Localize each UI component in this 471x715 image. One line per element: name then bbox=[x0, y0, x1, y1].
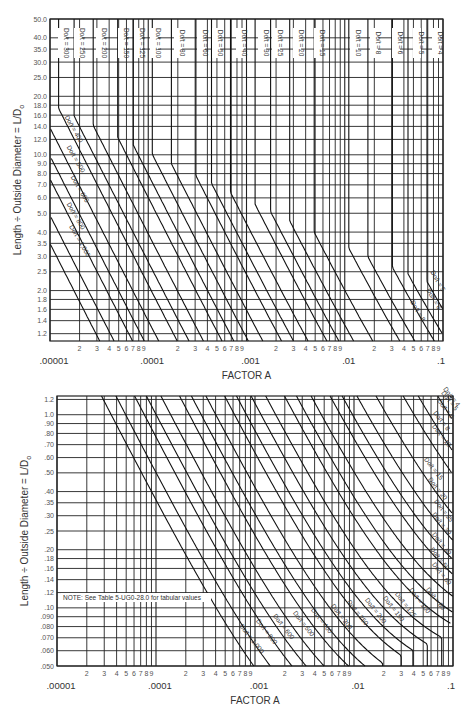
x-minor-tick-label: 2 bbox=[184, 670, 188, 677]
x-minor-tick-label: 6 bbox=[223, 345, 227, 352]
x-minor-tick-label: 5 bbox=[117, 345, 121, 352]
x-decade-label: .001 bbox=[250, 680, 269, 691]
x-minor-tick-label: 7 bbox=[139, 670, 143, 677]
x-minor-tick-label: 4 bbox=[205, 345, 209, 352]
x-minor-tick-label: 5 bbox=[124, 670, 128, 677]
x-decade-label: .1 bbox=[437, 355, 445, 366]
y-tick-label: 18.0 bbox=[33, 102, 47, 109]
y-tick-label: 1.4 bbox=[37, 317, 47, 324]
curve-label: Do/t = 40 bbox=[241, 30, 248, 57]
x-minor-tick-label: 3 bbox=[300, 670, 304, 677]
factor-a-chart-figure: 50.040.035.030.025.020.018.016.014.012.0… bbox=[0, 0, 471, 715]
y-tick-label: 30.0 bbox=[33, 59, 47, 66]
x-minor-tick-label: 7 bbox=[426, 345, 430, 352]
y-tick-label: 12.0 bbox=[33, 136, 47, 143]
y-tick-label: 1.8 bbox=[37, 296, 47, 303]
curve-do-t-30 bbox=[255, 19, 327, 341]
curve-label: Do/t = 4 bbox=[437, 32, 444, 55]
x-minor-tick-label: 8 bbox=[144, 670, 148, 677]
y-axis-title: Length ÷ Outside Diameter = L/Do bbox=[19, 456, 32, 606]
y-tick-label: .50 bbox=[44, 469, 54, 476]
y-tick-label: .20 bbox=[44, 546, 54, 553]
y-axis-title: Length ÷ Outside Diameter = L/Do bbox=[12, 105, 25, 255]
x-minor-tick-label: 5 bbox=[421, 670, 425, 677]
curve-do-t-50 bbox=[212, 19, 294, 341]
y-tick-label: 14.0 bbox=[33, 123, 47, 130]
y-tick-label: 8.0 bbox=[37, 170, 47, 177]
x-minor-tick-label: 5 bbox=[411, 345, 415, 352]
x-minor-tick-label: 4 bbox=[214, 670, 218, 677]
x-minor-tick-label: 8 bbox=[235, 345, 239, 352]
y-tick-label: .14 bbox=[44, 576, 54, 583]
x-minor-tick-label: 6 bbox=[231, 670, 235, 677]
x-decade-label: .0001 bbox=[140, 355, 164, 366]
x-minor-tick-label: 2 bbox=[372, 345, 376, 352]
x-minor-tick-label: 9 bbox=[338, 345, 342, 352]
y-tick-label: 2.0 bbox=[37, 287, 47, 294]
x-minor-tick-label: 9 bbox=[150, 670, 154, 677]
y-tick-label: .12 bbox=[44, 589, 54, 596]
y-tick-labels: 1.21.0.90.80.70.60.50.40.35.30.25.20.18.… bbox=[40, 396, 54, 670]
x-minor-tick-label: 4 bbox=[412, 670, 416, 677]
y-tick-label: .070 bbox=[40, 634, 54, 641]
y-tick-label: .080 bbox=[40, 623, 54, 630]
y-tick-label: .70 bbox=[44, 441, 54, 448]
y-tick-label: .90 bbox=[44, 420, 54, 427]
x-minor-tick-label: 7 bbox=[328, 345, 332, 352]
y-tick-label: 3.0 bbox=[37, 253, 47, 260]
y-tick-label: 1.2 bbox=[37, 330, 47, 337]
x-minor-tick-label: 9 bbox=[348, 670, 352, 677]
x-minor-tick-label: 9 bbox=[142, 345, 146, 352]
x-minor-tick-label: 7 bbox=[337, 670, 341, 677]
curve-label: Do/t = 60 bbox=[202, 30, 209, 57]
curve-label: Do/t = 200 bbox=[101, 28, 108, 59]
x-minor-tick-label: 4 bbox=[115, 670, 119, 677]
x-decade-label: .0001 bbox=[148, 680, 172, 691]
x-minor-tick-label: 4 bbox=[107, 345, 111, 352]
curve-labels-bottom: Do/t = 1,000Do/t = 800Do/t = 600Do/t = 5… bbox=[238, 385, 462, 655]
curve-label: Do/t = 10 bbox=[355, 30, 362, 57]
curve-label: Do/t = 25 bbox=[277, 30, 284, 57]
y-tick-label: 16.0 bbox=[33, 112, 47, 119]
x-decade-label: .01 bbox=[351, 680, 364, 691]
curve-label: Do/t = 30 bbox=[263, 30, 270, 57]
x-minor-tick-label: 9 bbox=[447, 670, 451, 677]
x-minor-tick-label: 8 bbox=[333, 345, 337, 352]
y-tick-label: .060 bbox=[40, 647, 54, 654]
grid bbox=[57, 396, 453, 666]
y-tick-labels: 50.040.035.030.025.020.018.016.014.012.0… bbox=[33, 16, 47, 338]
y-tick-label: .40 bbox=[44, 488, 54, 495]
x-minor-tick-label: 3 bbox=[399, 670, 403, 677]
curve-label: Do/t = 5 bbox=[418, 32, 425, 55]
y-tick-label: 40.0 bbox=[33, 34, 47, 41]
x-minor-tick-label: 6 bbox=[330, 670, 334, 677]
y-tick-label: .80 bbox=[44, 430, 54, 437]
x-minor-tick-label: 3 bbox=[390, 345, 394, 352]
y-tick-label: 25.0 bbox=[33, 74, 47, 81]
note-text: NOTE: See Table 5-UG0-28.0 for tabular v… bbox=[63, 594, 202, 601]
x-minor-tick-label: 9 bbox=[437, 345, 441, 352]
x-minor-tick-label: 3 bbox=[291, 345, 295, 352]
y-tick-label: 7.0 bbox=[37, 181, 47, 188]
x-minor-tick-label: 8 bbox=[243, 670, 247, 677]
curve-do-t-1000 bbox=[50, 244, 99, 341]
y-tick-label: .60 bbox=[44, 454, 54, 461]
curve-label: Do/t = 15 bbox=[319, 30, 326, 57]
x-minor-tick-label: 2 bbox=[283, 670, 287, 677]
y-tick-label: .30 bbox=[44, 512, 54, 519]
x-minor-tick-label: 9 bbox=[240, 345, 244, 352]
x-minor-tick-label: 5 bbox=[313, 345, 317, 352]
x-minor-tick-label: 7 bbox=[436, 670, 440, 677]
y-tick-label: 20.0 bbox=[33, 93, 47, 100]
curve-label: Do/t = 6 bbox=[397, 32, 404, 55]
y-tick-label: 5.0 bbox=[37, 210, 47, 217]
x-minor-tick-label: 5 bbox=[322, 670, 326, 677]
x-minor-tick-label: 3 bbox=[102, 670, 106, 677]
grid bbox=[50, 19, 443, 341]
note-annotation: NOTE: See Table 5-UG0-28.0 for tabular v… bbox=[61, 593, 211, 602]
x-minor-tick-label: 7 bbox=[131, 345, 135, 352]
x-minor-tick-label: 4 bbox=[402, 345, 406, 352]
x-minor-tick-label: 4 bbox=[313, 670, 317, 677]
x-minor-tick-label: 7 bbox=[238, 670, 242, 677]
curve-label: Do/t = 8 bbox=[375, 32, 382, 55]
